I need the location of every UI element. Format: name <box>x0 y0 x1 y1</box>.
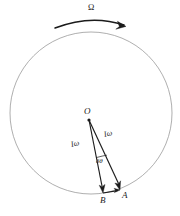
angle-delta-theta-label: δθ <box>96 158 103 165</box>
rotation-circle <box>10 32 172 194</box>
point-a-label: A <box>122 191 128 200</box>
precession-arrow <box>55 20 126 29</box>
point-b-label: B <box>100 196 106 205</box>
physics-diagram-figure: Ω O Iω Iω δθ B A <box>0 0 180 216</box>
vector-b-to-a <box>103 188 120 193</box>
precession-rate-label: Ω <box>88 3 94 12</box>
point-o-label: O <box>84 107 91 116</box>
